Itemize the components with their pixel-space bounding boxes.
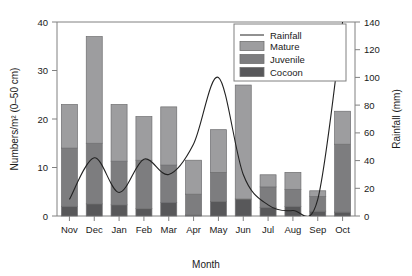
bar-aug[interactable] [285, 172, 301, 216]
bar-segment-juvenile [111, 161, 127, 205]
bar-segment-juvenile [285, 189, 301, 206]
bar-segment-cocoon [335, 212, 351, 216]
right-axis-tick-40: 40 [364, 155, 375, 166]
x-axis-label-apr: Apr [186, 224, 201, 235]
bar-segment-mature [86, 37, 102, 144]
x-axis-title: Month [192, 259, 220, 270]
bar-segment-cocoon [61, 206, 77, 216]
x-axis-label-sep: Sep [309, 224, 326, 235]
left-axis-tick-10: 10 [37, 162, 48, 173]
bar-segment-cocoon [235, 199, 251, 216]
bar-segment-cocoon [136, 209, 152, 216]
bar-feb[interactable] [136, 117, 152, 216]
x-axis-label-oct: Oct [335, 224, 350, 235]
left-axis-tick-30: 30 [37, 65, 48, 76]
bar-jan[interactable] [111, 104, 127, 216]
x-axis-label-jan: Jan [111, 224, 126, 235]
x-axis-label-jul: Jul [262, 224, 274, 235]
bar-segment-mature [186, 160, 202, 194]
left-axis-title: Numbers/m² (0–50 cm) [9, 68, 20, 171]
legend-label-mature: Mature [270, 41, 300, 52]
bar-may[interactable] [210, 130, 226, 216]
bar-segment-mature [335, 111, 351, 144]
bar-sep[interactable] [310, 191, 326, 216]
left-axis-tick-0: 0 [43, 211, 48, 222]
right-axis: 0 20 40 60 80 100 120 140 Rainfall (mm) [355, 17, 402, 222]
right-axis-tick-0: 0 [364, 211, 369, 222]
bar-segment-mature [285, 172, 301, 189]
left-axis-tick-40: 40 [37, 17, 48, 28]
x-axis-label-jun: Jun [236, 224, 251, 235]
x-axis-label-dec: Dec [86, 224, 103, 235]
bar-mar[interactable] [161, 107, 177, 216]
x-axis-label-nov: Nov [61, 224, 78, 235]
bar-segment-mature [111, 104, 127, 161]
bar-segment-mature [161, 107, 177, 165]
bottom-axis: NovDecJanFebMarAprMayJunJulAugSepOct [61, 216, 350, 235]
bar-dec[interactable] [86, 37, 102, 216]
bar-segment-juvenile [136, 160, 152, 209]
legend-label-cocoon: Cocoon [270, 67, 303, 78]
legend-item-mature[interactable]: Mature [240, 41, 300, 52]
bar-segment-cocoon [210, 201, 226, 216]
left-axis: 0 10 20 30 40 Numbers/m² (0–50 cm) [9, 17, 57, 222]
bar-segment-cocoon [86, 204, 102, 216]
legend-item-cocoon[interactable]: Cocoon [240, 67, 303, 78]
bar-segment-cocoon [111, 205, 127, 216]
bar-segment-juvenile [260, 187, 276, 207]
right-axis-tick-140: 140 [364, 17, 380, 28]
x-axis-label-feb: Feb [136, 224, 152, 235]
bar-segment-mature [310, 191, 326, 197]
bar-jul[interactable] [260, 175, 276, 216]
bar-segment-juvenile [186, 194, 202, 215]
legend-swatch-juvenile-icon [240, 55, 264, 64]
bar-oct[interactable] [335, 111, 351, 216]
legend-label-rainfall: Rainfall [270, 30, 302, 41]
chart-figure: 0 10 20 30 40 Numbers/m² (0–50 cm) 0 20 … [0, 0, 412, 276]
bar-segment-cocoon [161, 202, 177, 216]
bar-apr[interactable] [186, 160, 202, 216]
bar-segment-mature [210, 130, 226, 173]
bar-segment-juvenile [61, 148, 77, 206]
x-axis-label-may: May [209, 224, 227, 235]
left-axis-tick-20: 20 [37, 114, 48, 125]
bar-segment-mature [61, 104, 77, 148]
x-axis-label-aug: Aug [284, 224, 301, 235]
right-axis-title: Rainfall (mm) [391, 89, 402, 148]
bar-segment-juvenile [210, 172, 226, 201]
legend: Rainfall Mature Juvenile Cocoon [234, 24, 346, 81]
bar-segment-juvenile [86, 143, 102, 204]
x-axis-label-mar: Mar [161, 224, 177, 235]
bar-jun[interactable] [235, 85, 251, 216]
legend-item-juvenile[interactable]: Juvenile [240, 54, 305, 65]
bar-segment-mature [136, 117, 152, 161]
right-axis-tick-60: 60 [364, 127, 375, 138]
right-axis-tick-120: 120 [364, 44, 380, 55]
legend-swatch-mature-icon [240, 42, 264, 51]
bar-segment-mature [235, 85, 251, 199]
right-axis-tick-20: 20 [364, 183, 375, 194]
bar-segment-mature [260, 175, 276, 187]
right-axis-tick-100: 100 [364, 72, 380, 83]
legend-swatch-cocoon-icon [240, 68, 264, 77]
rainfall-population-chart: 0 10 20 30 40 Numbers/m² (0–50 cm) 0 20 … [0, 0, 412, 276]
bar-segment-juvenile [335, 144, 351, 212]
legend-label-juvenile: Juvenile [270, 54, 305, 65]
right-axis-tick-80: 80 [364, 100, 375, 111]
